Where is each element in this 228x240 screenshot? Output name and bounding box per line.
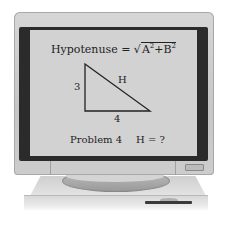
- question-text: H = ?: [136, 134, 165, 145]
- problem-label: Problem 4: [70, 134, 122, 145]
- floppy-drive-slot: [145, 201, 192, 204]
- formula-a: A: [142, 43, 150, 56]
- side-a-label: 3: [74, 81, 80, 92]
- formula-lhs: Hypotenuse =: [51, 43, 134, 56]
- hypotenuse-label: H: [118, 74, 127, 85]
- bezel-divider-left: [50, 161, 51, 175]
- side-b-label: 4: [114, 113, 120, 124]
- right-triangle-diagram: [80, 60, 160, 116]
- pythagorean-formula: Hypotenuse = √A2+B2: [30, 42, 197, 56]
- power-button[interactable]: [185, 164, 204, 171]
- formula-radicand: A2+B2: [141, 42, 176, 56]
- formula-b-exponent: 2: [172, 42, 176, 50]
- bezel-divider-right: [175, 161, 176, 175]
- formula-plus-b: +B: [154, 43, 171, 56]
- sqrt-icon: √: [134, 43, 141, 56]
